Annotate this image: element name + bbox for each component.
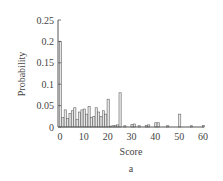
y-tick-label: 0.1 [42,79,55,90]
y-tick-label: 0 [49,122,54,133]
y-tick-label: 0.2 [42,36,55,47]
x-tick-label: 20 [103,131,113,142]
bar [62,118,64,127]
x-axis-title: Score [120,146,143,157]
bar [93,116,95,127]
bar [95,108,97,127]
bar-chart: 00.050.10.150.20.25 0102030405060 Score … [0,0,223,181]
x-ticks: 0102030405060 [58,131,209,142]
bar [98,112,100,127]
y-axis-title: Probability [16,52,27,96]
bar [100,116,102,127]
bar [102,111,104,127]
bar [105,114,107,127]
x-tick-label: 30 [127,131,137,142]
bar [78,112,80,127]
bar [119,93,121,127]
bar [155,123,157,127]
y-tick-label: 0.05 [37,100,55,111]
x-tick-label: 60 [198,131,208,142]
bar [81,110,83,127]
bar [88,106,90,127]
bar [64,110,66,127]
bar [83,109,85,127]
bars [59,41,204,127]
bar [107,99,109,127]
x-tick-label: 50 [174,131,184,142]
bar [67,118,69,127]
x-tick-label: 10 [79,131,89,142]
bar [74,108,76,127]
bar [76,119,78,127]
bar [86,114,88,127]
x-tick-label: 0 [58,131,63,142]
bar [157,123,159,127]
x-tick-label: 40 [150,131,160,142]
y-tick-label: 0.15 [37,57,55,68]
y-ticks: 00.050.10.150.20.25 [37,15,62,133]
bar [71,111,73,127]
bar [90,118,92,127]
bar [69,113,71,127]
y-tick-label: 0.25 [37,15,55,26]
bar [179,114,181,127]
panel-label: a [129,163,134,174]
